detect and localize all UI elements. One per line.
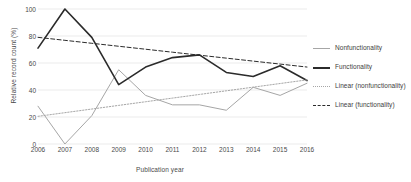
legend-line-icon [313,81,330,90]
legend-item[interactable]: Linear (functionality) [313,95,411,114]
legend-label: Functionality [335,63,372,70]
legend-item[interactable]: Linear (nonfunctionality) [313,76,411,95]
legend-line-icon [313,62,330,71]
chart-legend: NonfunctionalityFunctionalityLinear (non… [313,38,411,114]
series-line-2 [38,80,307,116]
legend-line-icon [313,43,330,52]
legend-item[interactable]: Nonfunctionality [313,38,411,57]
legend-label: Nonfunctionality [335,44,382,51]
legend-line-icon [313,100,330,109]
series-line-1 [38,9,307,85]
legend-label: Linear (functionality) [335,101,395,108]
legend-label: Linear (nonfunctionality) [335,82,406,89]
series-line-3 [38,37,307,67]
series-line-0 [38,70,307,144]
chart-figure: Relative record count (%) Publication ye… [0,0,411,182]
legend-item[interactable]: Functionality [313,57,411,76]
